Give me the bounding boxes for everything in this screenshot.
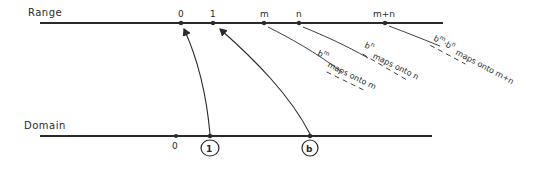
svg-text:m: m [260,9,269,19]
svg-text:maps onto m: maps onto m [326,60,378,91]
annotation-bm-bn-maps-onto-m-plus-n: bm·bn maps onto m+n [430,31,518,88]
annotation-bm-maps-onto-m: bm maps onto m [312,46,381,94]
exponent-mapping-diagram: Range 0 1 m n m+n [0,0,534,172]
svg-text:1: 1 [206,144,212,154]
domain-point-b: b [302,134,318,156]
svg-text:bm·bn: bm·bn [432,31,458,52]
range-axis: Range 0 1 m n m+n [28,7,443,25]
range-point-0: 0 [178,9,184,25]
domain-label: Domain [24,120,66,131]
leader-line-n [303,27,368,58]
domain-axis: Domain 0 1 b [24,120,432,156]
range-point-n: n [296,9,302,25]
leader-line-m-plus-n [389,26,440,46]
range-point-1: 1 [210,9,216,25]
svg-text:maps onto m+n: maps onto m+n [454,48,515,86]
annotation-bn-maps-onto-n: bn maps onto n [359,38,424,84]
arrow-b-to-1 [220,29,310,134]
domain-point-1: 1 [201,134,219,156]
svg-text:b: b [306,144,313,154]
arrow-1-to-0 [184,29,210,134]
svg-text:1: 1 [210,9,216,19]
svg-text:0: 0 [172,141,178,151]
diagram-canvas: Range 0 1 m n m+n [0,0,534,172]
svg-text:maps onto n: maps onto n [371,51,420,81]
range-label: Range [28,7,62,18]
svg-text:n: n [296,9,302,19]
svg-text:0: 0 [178,9,184,19]
svg-text:m+n: m+n [373,9,395,19]
